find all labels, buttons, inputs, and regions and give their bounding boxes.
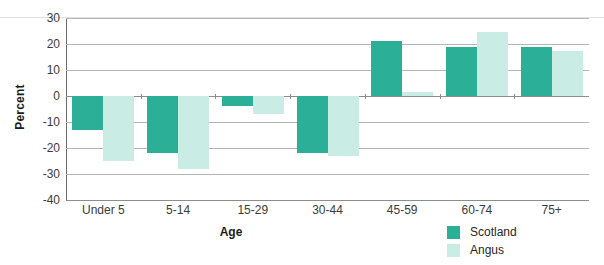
x-tick-label-45-59: 45-59 bbox=[387, 203, 418, 217]
x-axis-title: Age bbox=[66, 225, 396, 239]
y-tick-label: -10 bbox=[20, 115, 60, 129]
x-tick-label-75-: 75+ bbox=[541, 203, 561, 217]
bar-scotland-15-29 bbox=[222, 96, 253, 106]
gridline-neg30 bbox=[66, 174, 589, 175]
y-tick-label: -20 bbox=[20, 141, 60, 155]
legend-swatch-scotland bbox=[447, 226, 460, 239]
zero-axis-tick bbox=[215, 94, 216, 99]
legend-item-scotland: Scotland bbox=[447, 223, 597, 241]
zero-axis-tick bbox=[514, 94, 515, 99]
legend-label-angus: Angus bbox=[470, 243, 504, 257]
bar-angus-15-29 bbox=[253, 96, 284, 114]
bar-scotland-5-14 bbox=[147, 96, 178, 153]
y-axis-spine bbox=[66, 18, 67, 200]
bar-angus-75- bbox=[552, 51, 583, 97]
bar-scotland-30-44 bbox=[297, 96, 328, 153]
y-tick-label: -30 bbox=[20, 167, 60, 181]
gridline-20 bbox=[66, 44, 589, 45]
bar-angus-45-59 bbox=[402, 92, 433, 96]
legend-label-scotland: Scotland bbox=[470, 225, 517, 239]
zero-axis-tick bbox=[290, 94, 291, 99]
bar-angus-30-44 bbox=[328, 96, 359, 156]
bar-scotland-45-59 bbox=[371, 41, 402, 96]
y-tick-label: 10 bbox=[20, 63, 60, 77]
bar-chart-figure: Percent 3020100-10-20-30-40 Under 55-141… bbox=[0, 0, 604, 265]
zero-axis-tick bbox=[141, 94, 142, 99]
bar-scotland-under-5 bbox=[72, 96, 103, 130]
legend-item-angus: Angus bbox=[447, 241, 597, 259]
y-tick-label: 20 bbox=[20, 37, 60, 51]
x-tick-label-under-5: Under 5 bbox=[82, 203, 125, 217]
y-tick-label: 0 bbox=[20, 89, 60, 103]
zero-axis-tick bbox=[440, 94, 441, 99]
gridline-30 bbox=[66, 18, 589, 19]
bar-scotland-75- bbox=[521, 47, 552, 96]
bar-angus-5-14 bbox=[178, 96, 209, 169]
bar-angus-under-5 bbox=[103, 96, 134, 161]
x-tick-label-5-14: 5-14 bbox=[166, 203, 190, 217]
x-tick-labels-group: Under 55-1415-2930-4445-5960-7475+ bbox=[66, 203, 589, 219]
x-tick-label-15-29: 15-29 bbox=[237, 203, 268, 217]
bar-scotland-60-74 bbox=[446, 47, 477, 96]
y-tick-label: -40 bbox=[20, 193, 60, 207]
chart-legend: Scotland Angus bbox=[447, 223, 597, 259]
plot-area: 3020100-10-20-30-40 bbox=[66, 18, 589, 200]
x-tick-label-60-74: 60-74 bbox=[462, 203, 493, 217]
gridline-10 bbox=[66, 70, 589, 71]
y-tick-label: 30 bbox=[20, 11, 60, 25]
bar-angus-60-74 bbox=[477, 32, 508, 96]
legend-swatch-angus bbox=[447, 244, 460, 257]
zero-axis-tick bbox=[365, 94, 366, 99]
gridline-neg40 bbox=[66, 200, 589, 201]
x-tick-label-30-44: 30-44 bbox=[312, 203, 343, 217]
